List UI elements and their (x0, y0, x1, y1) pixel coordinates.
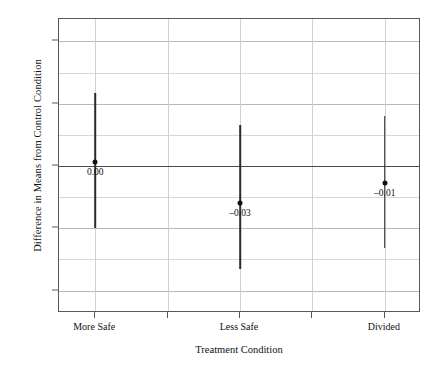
y-axis-tick-mark (52, 40, 58, 41)
x-axis-tick-mark (311, 312, 312, 318)
x-axis-tick-mark (239, 312, 240, 318)
plot-area: 0.00–0.03–0.01 (58, 18, 420, 312)
vertical-gridline (168, 19, 169, 311)
x-axis-tick-mark (94, 312, 95, 318)
data-point-label: 0.00 (87, 167, 104, 177)
y-axis-tick-mark (52, 102, 58, 103)
data-point (382, 181, 387, 186)
major-gridline (59, 41, 419, 42)
chart-figure: Difference in Means from Control Conditi… (0, 0, 432, 369)
y-axis-tick-mark (52, 227, 58, 228)
major-gridline (59, 104, 419, 105)
y-axis-tick-mark (52, 289, 58, 290)
y-axis-tick-mark (52, 165, 58, 166)
data-point-label: –0.01 (374, 188, 395, 198)
x-axis-title: Treatment Condition (58, 344, 420, 355)
error-bar (239, 125, 241, 270)
data-point-label: –0.03 (229, 208, 250, 218)
minor-gridline (59, 73, 419, 74)
y-axis-title: Difference in Means from Control Conditi… (32, 11, 43, 301)
x-axis-tick-mark (167, 312, 168, 318)
major-gridline (59, 291, 419, 292)
vertical-gridline (312, 19, 313, 311)
x-axis-tick-label: Less Safe (220, 321, 259, 332)
data-point (238, 201, 243, 206)
x-axis-tick-label: More Safe (73, 321, 115, 332)
x-axis-tick-mark (384, 312, 385, 318)
x-axis-tick-label: Divided (368, 321, 400, 332)
data-point (93, 160, 98, 165)
